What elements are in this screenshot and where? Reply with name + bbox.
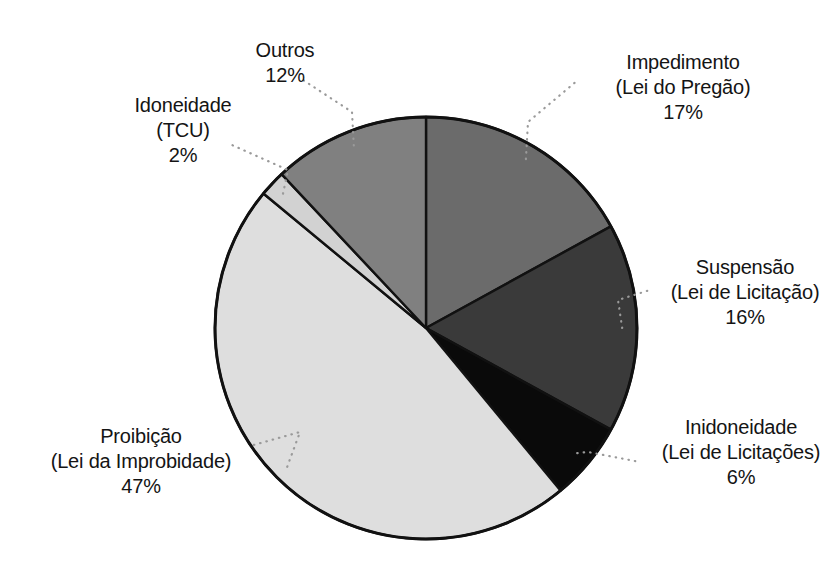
pie-label-idoneidade-percent: 2% bbox=[108, 143, 258, 168]
pie-label-suspensao: Suspensão (Lei de Licitação) 16% bbox=[655, 255, 835, 330]
pie-label-impedimento-percent: 17% bbox=[583, 100, 783, 125]
pie-label-suspensao-name: Suspensão bbox=[655, 255, 835, 280]
pie-label-inidoneidade-percent: 6% bbox=[643, 465, 839, 490]
pie-label-outros-percent: 12% bbox=[230, 63, 340, 88]
pie-label-idoneidade-sub: (TCU) bbox=[108, 118, 258, 143]
pie-label-suspensao-percent: 16% bbox=[655, 305, 835, 330]
pie-label-proibicao-percent: 47% bbox=[26, 474, 256, 499]
pie-label-idoneidade: Idoneidade (TCU) 2% bbox=[108, 93, 258, 168]
pie-label-impedimento-name: Impedimento bbox=[583, 50, 783, 75]
pie-label-suspensao-sub: (Lei de Licitação) bbox=[655, 280, 835, 305]
pie-label-proibicao-name: Proibição bbox=[26, 424, 256, 449]
pie-slice-layer bbox=[215, 117, 637, 539]
pie-label-proibicao: Proibição (Lei da Improbidade) 47% bbox=[26, 424, 256, 499]
pie-label-outros-name: Outros bbox=[230, 38, 340, 63]
pie-label-impedimento-sub: (Lei do Pregão) bbox=[583, 75, 783, 100]
pie-chart: Outros 12% Idoneidade (TCU) 2% Impedimen… bbox=[0, 0, 839, 584]
pie-label-idoneidade-name: Idoneidade bbox=[108, 93, 258, 118]
pie-label-inidoneidade: Inidoneidade (Lei de Licitações) 6% bbox=[643, 415, 839, 490]
pie-label-inidoneidade-name: Inidoneidade bbox=[643, 415, 839, 440]
pie-label-proibicao-sub: (Lei da Improbidade) bbox=[26, 449, 256, 474]
pie-label-impedimento: Impedimento (Lei do Pregão) 17% bbox=[583, 50, 783, 125]
pie-label-outros: Outros 12% bbox=[230, 38, 340, 88]
pie-label-inidoneidade-sub: (Lei de Licitações) bbox=[643, 440, 839, 465]
